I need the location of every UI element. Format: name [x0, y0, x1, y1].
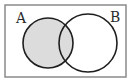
set-b-label: B	[110, 9, 120, 25]
set-a-label: A	[15, 10, 27, 26]
venn-diagram: A B	[0, 0, 132, 81]
